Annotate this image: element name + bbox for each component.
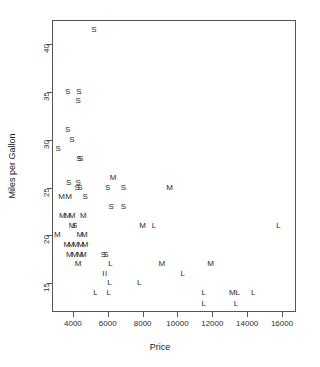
data-point-l: L bbox=[235, 289, 239, 297]
data-point-m: M bbox=[158, 260, 165, 268]
data-point-s: S bbox=[76, 88, 81, 96]
x-axis-tick bbox=[73, 312, 74, 317]
x-axis-tick-label: 6000 bbox=[99, 320, 117, 328]
data-point-s: S bbox=[77, 184, 82, 192]
y-axis-label: Miles per Gallon bbox=[8, 133, 17, 198]
plot-data-area: SSSSSSSSSSSSSSSSSSSSSMMMMMMMMMMMMMMMMMMM… bbox=[52, 20, 296, 312]
data-point-m: M bbox=[81, 231, 88, 239]
data-point-s: S bbox=[55, 145, 60, 153]
y-axis-tick-label: 20 bbox=[43, 235, 51, 244]
data-point-l: L bbox=[152, 222, 156, 230]
x-axis-tick bbox=[108, 312, 109, 317]
data-point-s: S bbox=[75, 97, 80, 105]
data-point-m: M bbox=[69, 212, 76, 220]
x-axis-tick bbox=[247, 312, 248, 317]
data-point-l: L bbox=[251, 289, 255, 297]
data-point-s: S bbox=[103, 251, 108, 259]
y-axis-tick-label: 15 bbox=[43, 283, 51, 292]
data-point-l: L bbox=[137, 279, 141, 287]
y-axis-tick-label: 25 bbox=[43, 188, 51, 197]
data-point-s: S bbox=[65, 126, 70, 134]
x-axis-tick bbox=[143, 312, 144, 317]
data-point-m: M bbox=[139, 222, 146, 230]
data-point-m: M bbox=[80, 251, 87, 259]
x-axis-tick-label: 8000 bbox=[134, 320, 152, 328]
data-point-l: L bbox=[106, 289, 110, 297]
data-point-m: M bbox=[82, 241, 89, 249]
x-axis-label: Price bbox=[0, 342, 320, 352]
y-axis-tick-label: 35 bbox=[43, 92, 51, 101]
x-axis-tick-label: 12000 bbox=[201, 320, 223, 328]
data-point-s: S bbox=[121, 184, 126, 192]
data-point-l: L bbox=[201, 300, 205, 308]
x-axis-tick bbox=[177, 312, 178, 317]
data-point-s: S bbox=[105, 184, 110, 192]
data-point-l: L bbox=[234, 300, 238, 308]
data-point-l: L bbox=[93, 289, 97, 297]
data-point-m: M bbox=[65, 193, 72, 201]
x-axis-tick bbox=[212, 312, 213, 317]
data-point-l: L bbox=[180, 270, 184, 278]
data-point-s: S bbox=[65, 88, 70, 96]
data-point-s: S bbox=[66, 179, 71, 187]
data-point-s: S bbox=[109, 203, 114, 211]
data-point-l: L bbox=[108, 260, 112, 268]
x-axis-tick-label: 16000 bbox=[271, 320, 293, 328]
data-point-s: S bbox=[91, 26, 96, 34]
data-point-m: M bbox=[58, 193, 65, 201]
data-point-m: M bbox=[54, 231, 61, 239]
data-point-l: L bbox=[201, 289, 205, 297]
x-axis-tick-label: 14000 bbox=[236, 320, 258, 328]
data-point-l: L bbox=[276, 222, 280, 230]
x-axis-tick-label: 10000 bbox=[166, 320, 188, 328]
x-axis-tick bbox=[282, 312, 283, 317]
data-point-s: S bbox=[82, 193, 87, 201]
data-point-m: M bbox=[75, 260, 82, 268]
data-point-s: S bbox=[69, 136, 74, 144]
data-point-m: M bbox=[80, 212, 87, 220]
x-axis-tick-label: 4000 bbox=[64, 320, 82, 328]
data-point-s: S bbox=[78, 155, 83, 163]
data-point-m: M bbox=[110, 174, 117, 182]
data-point-m: M bbox=[166, 184, 173, 192]
data-point-s: S bbox=[121, 203, 126, 211]
data-point-m: M bbox=[69, 222, 76, 230]
y-axis-tick-label: 30 bbox=[43, 140, 51, 149]
y-axis-tick-label: 40 bbox=[43, 44, 51, 53]
data-point-l: L bbox=[107, 279, 111, 287]
data-point-m: M bbox=[207, 260, 214, 268]
scatter-plot-figure: SSSSSSSSSSSSSSSSSSSSSMMMMMMMMMMMMMMMMMMM… bbox=[0, 0, 320, 367]
data-point-i: I bbox=[105, 270, 107, 278]
